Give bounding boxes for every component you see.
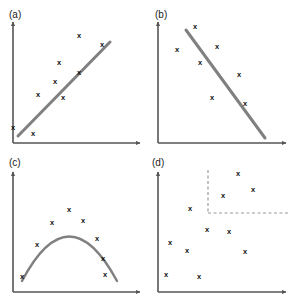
data-point-marker: x <box>198 58 203 67</box>
data-point-marker: x <box>205 225 210 234</box>
data-point-marker: x <box>251 185 256 194</box>
data-point-marker: x <box>61 93 66 102</box>
data-point-marker: x <box>185 246 190 255</box>
data-point-marker: x <box>188 204 193 213</box>
data-point-marker: x <box>53 77 58 86</box>
data-point-marker: x <box>57 58 62 67</box>
data-point-marker: x <box>221 191 226 200</box>
data-point-marker: x <box>36 90 41 99</box>
panel-a: xxxxxxxxx(a) <box>9 9 140 143</box>
data-point-marker: x <box>197 272 202 281</box>
data-point-marker: x <box>227 227 232 236</box>
panel-label-d: (d) <box>152 157 164 168</box>
panel-b: xxxxxxx(b) <box>155 9 286 143</box>
data-point-marker: x <box>243 99 248 108</box>
trend-line-a <box>18 42 110 136</box>
panel-c: xxxxxxxx(c) <box>9 157 140 292</box>
data-point-marker: x <box>81 216 86 225</box>
data-point-marker: x <box>31 129 36 138</box>
panel-label-a: (a) <box>9 9 21 20</box>
data-point-marker: x <box>77 31 82 40</box>
scatterplot-figure: xxxxxxxxx(a)xxxxxxx(b)xxxxxxxx(c)xxxxxxx… <box>0 0 291 299</box>
figure-canvas: xxxxxxxxx(a)xxxxxxx(b)xxxxxxxx(c)xxxxxxx… <box>0 0 291 299</box>
data-point-marker: x <box>11 123 16 132</box>
data-point-marker: x <box>35 240 40 249</box>
data-point-marker: x <box>193 22 198 31</box>
data-point-marker: x <box>243 247 248 256</box>
data-point-marker: x <box>164 270 169 279</box>
panels-group: xxxxxxxxx(a)xxxxxxx(b)xxxxxxxx(c)xxxxxxx… <box>9 9 288 292</box>
data-point-marker: x <box>175 45 180 54</box>
data-point-marker: x <box>236 169 241 178</box>
trend-line-b <box>186 30 265 138</box>
data-point-marker: x <box>237 70 242 79</box>
panel-label-b: (b) <box>155 9 167 20</box>
data-point-marker: x <box>103 270 108 279</box>
data-point-marker: x <box>67 205 72 214</box>
panel-label-c: (c) <box>9 157 21 168</box>
data-point-marker: x <box>215 42 220 51</box>
data-point-marker: x <box>168 238 173 247</box>
data-point-marker: x <box>95 234 100 243</box>
data-point-marker: x <box>210 93 215 102</box>
data-point-marker: x <box>50 218 55 227</box>
panel-d: xxxxxxxxxxx(d) <box>152 157 288 292</box>
